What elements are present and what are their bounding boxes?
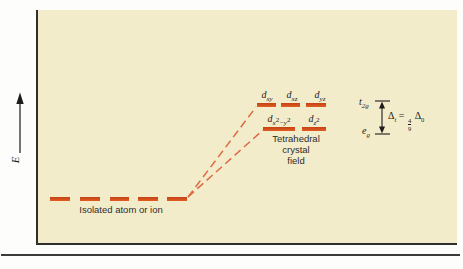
orbital-label-dxz: dxz [287, 89, 298, 103]
e-level-bar-dz2 [302, 127, 326, 131]
isolated-level-dash [167, 197, 187, 201]
t2g-symmetry-label: t2g [359, 96, 369, 110]
orbital-label-dxy: dxy [261, 89, 272, 103]
energy-axis-label: E [9, 157, 21, 164]
isolated-level-dash [138, 197, 158, 201]
t2-level-bar-dxy [257, 103, 276, 107]
bottom-rule [1, 254, 460, 256]
eg-symmetry-label: eg [362, 125, 370, 139]
t2-level-bar-dyz [306, 103, 326, 107]
isolated-level-dash [80, 197, 100, 201]
splitting-energy-equation: Δt = 49 Δ0 [388, 110, 424, 132]
orbital-label-dx2y2: dx2−y2 [268, 113, 291, 127]
t2-level-bar-dxz [281, 103, 300, 107]
fraction-four-ninths: 49 [408, 117, 411, 133]
isolated-level-label: Isolated atom or ion [79, 204, 162, 215]
isolated-level-dash [110, 197, 129, 201]
e-level-bar-dx2y2 [263, 127, 295, 131]
figure-canvas: E Isolated atom or ion dxy dxz dyz dx2−y… [0, 0, 463, 269]
orbital-label-dyz: dyz [315, 89, 326, 103]
energy-axis-arrow [16, 93, 23, 154]
tetrahedral-field-label: Tetrahedral crystal field [272, 133, 320, 166]
isolated-level-dash [50, 197, 70, 201]
orbital-label-dz2: dz2 [308, 113, 319, 127]
